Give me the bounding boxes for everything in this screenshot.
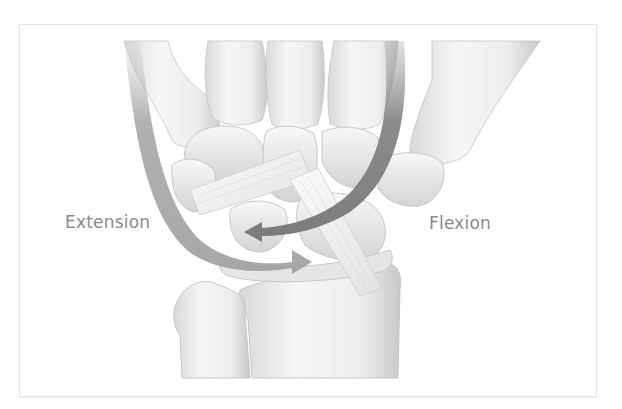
- metacarpal-4: [205, 41, 267, 125]
- thumb-metacarpal: [410, 41, 540, 164]
- flexion-label: Flexion: [429, 213, 491, 233]
- ulna-bone: [174, 282, 250, 378]
- metacarpal-3: [266, 41, 324, 129]
- extension-label: Extension: [65, 212, 150, 232]
- wrist-illustration: [0, 0, 622, 409]
